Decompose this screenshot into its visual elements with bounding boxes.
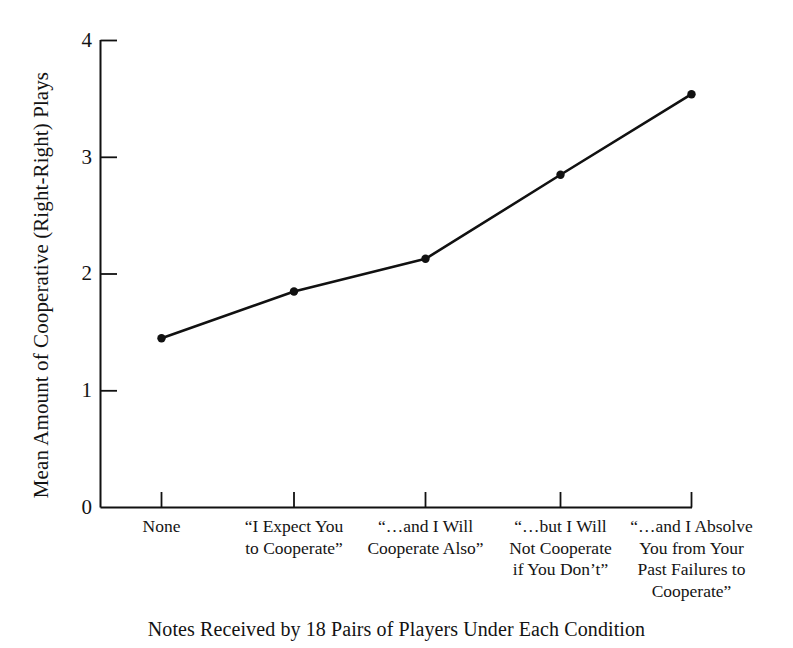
x-axis-ticks	[162, 492, 692, 508]
figure-caption: Notes Received by 18 Pairs of Players Un…	[0, 618, 793, 641]
x-category-label-line: “…and I Will	[351, 516, 501, 538]
x-category-label-3: “…but I WillNot Cooperateif You Don’t”	[486, 516, 636, 581]
data-point-3	[556, 171, 564, 179]
data-series-line	[162, 94, 692, 338]
x-category-label-line: Cooperate Also”	[351, 538, 501, 560]
x-category-label-line: “…and I Absolve	[617, 516, 767, 538]
x-category-label-line: to Cooperate”	[219, 538, 369, 560]
data-point-2	[421, 255, 429, 263]
data-point-1	[290, 287, 298, 295]
x-category-label-line: if You Don’t”	[486, 559, 636, 581]
data-point-4	[687, 90, 695, 98]
x-category-label-line: Cooperate”	[617, 581, 767, 603]
x-category-label-line: Past Failures to	[617, 559, 767, 581]
x-category-label-line: You from Your	[617, 538, 767, 560]
data-point-0	[157, 334, 165, 342]
x-category-label-line: “I Expect You	[219, 516, 369, 538]
x-category-label-line: Not Cooperate	[486, 538, 636, 560]
figure-container: Mean Amount of Cooperative (Right-Right)…	[0, 0, 793, 648]
x-category-label-0: None	[87, 516, 237, 538]
x-category-label-2: “…and I WillCooperate Also”	[351, 516, 501, 559]
data-series-markers	[157, 90, 695, 342]
x-category-label-line: “…but I Will	[486, 516, 636, 538]
x-category-label-1: “I Expect Youto Cooperate”	[219, 516, 369, 559]
x-category-label-4: “…and I AbsolveYou from YourPast Failure…	[617, 516, 767, 602]
x-axis-category-labels: None “I Expect Youto Cooperate” “…and I …	[0, 516, 793, 616]
y-axis-ticks	[101, 41, 118, 391]
x-category-label-line: None	[87, 516, 237, 538]
